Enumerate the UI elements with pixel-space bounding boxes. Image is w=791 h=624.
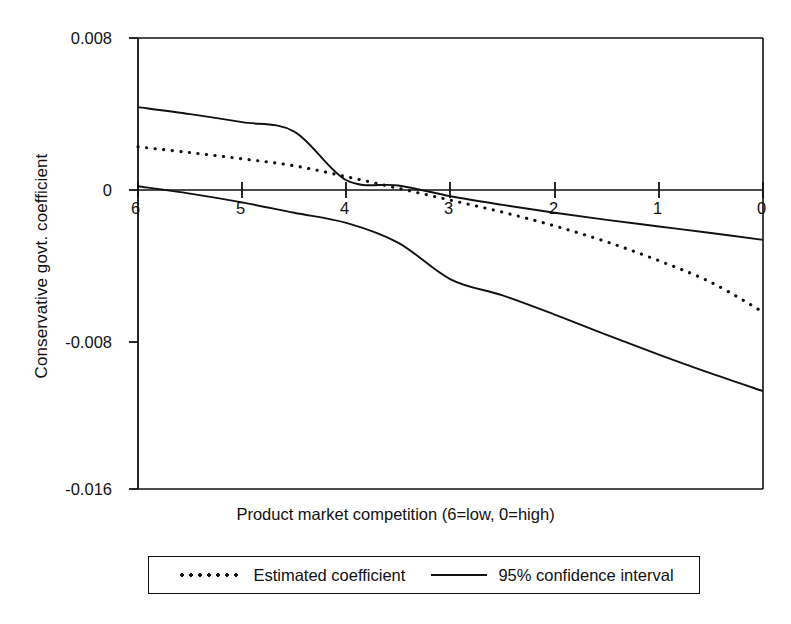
series-lower-confidence-bound — [138, 186, 763, 391]
series-upper-confidence-bound — [138, 107, 763, 240]
x-axis-title: Product market competition (6=low, 0=hig… — [0, 505, 791, 524]
y-axis-ticks — [129, 38, 138, 489]
plot-area — [0, 0, 791, 624]
legend-entry-confidence-interval: 95% confidence interval — [405, 566, 673, 585]
dotted-line-swatch-icon — [180, 573, 242, 577]
series-estimated-coefficient — [138, 147, 763, 312]
axis-frame — [138, 38, 763, 489]
legend-label-confidence-interval: 95% confidence interval — [498, 566, 673, 585]
chart-legend: Estimated coefficient 95% confidence int… — [148, 556, 700, 594]
solid-line-swatch-icon — [431, 574, 487, 576]
legend-entry-estimated: Estimated coefficient — [174, 566, 405, 585]
figure-container: Conservative govt. coefficient 0.008 0 -… — [0, 0, 791, 624]
legend-label-estimated: Estimated coefficient — [253, 566, 405, 585]
